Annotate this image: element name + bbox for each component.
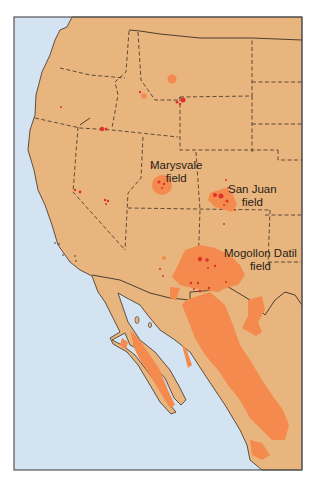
label-marysvale-field: Marysvale field bbox=[150, 159, 202, 185]
label-mogollon-datil-field: Mogollon Datil field bbox=[224, 247, 297, 273]
island bbox=[148, 322, 151, 327]
label-san-juan-field: San Juan field bbox=[228, 183, 277, 209]
volcanic-fields-map bbox=[0, 0, 313, 485]
island bbox=[135, 317, 139, 324]
